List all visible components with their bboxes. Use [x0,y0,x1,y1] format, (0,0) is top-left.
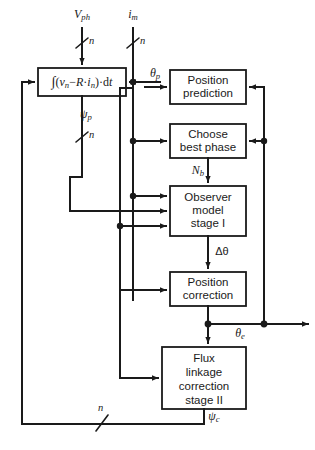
signal-label-delta-theta: Δθ [215,245,228,257]
signal-label-thetap: θp [150,66,161,81]
bus-label-psip: n [89,129,94,140]
nb-signal-group: Nb [191,158,208,182]
observer-model-label-line3: stage I [191,217,226,229]
input-im-group: n im [127,7,160,300]
position-correction-label-line2: correction [183,289,234,301]
block-position-prediction: Position prediction [170,70,246,104]
observer-model-label-line1: Observer [184,191,231,203]
signal-label-thetae: θe [235,326,245,341]
integrator-formula: ∫(vn−R·in)·dt [51,74,113,90]
psi-p-path-group: n ψp [70,96,166,211]
observer-block-diagram: n Vph n im ∫(vn−R·in)·dt [0,0,315,450]
bus-label-psic: n [98,402,103,413]
block-choose-best-phase: Choose best phase [130,124,246,158]
bus-label-vph: n [89,35,94,46]
block-position-correction: Position correction [170,272,246,306]
block-diagram-canvas: n Vph n im ∫(vn−R·in)·dt [0,0,315,450]
bus-label-im: n [140,35,145,46]
observer-model-label-line2: model [192,204,223,216]
theta-e-output-group: θe [205,306,308,343]
choose-best-phase-label-line1: Choose [188,128,228,140]
block-integrator: ∫(vn−R·in)·dt [38,68,126,96]
junction-dot-thetap-observer [117,223,123,229]
signal-label-im: im [128,7,138,22]
right-feedback-bus-group [250,87,267,324]
flux-linkage-label-line3: correction [179,380,230,392]
position-prediction-label-line1: Position [188,74,229,86]
choose-best-phase-label-line2: best phase [180,141,236,153]
signal-label-psic: ψc [208,409,219,424]
position-correction-label-line1: Position [188,276,229,288]
input-vph-group: n Vph [74,7,94,64]
signal-label-nb: Nb [191,163,205,178]
junction-dot-im-choose [130,138,136,144]
block-flux-linkage-correction: Flux linkage correction stage II [120,290,246,409]
signal-label-psip: ψp [80,107,92,122]
flux-linkage-label-line4: stage II [185,394,223,406]
flux-linkage-label-line1: Flux [193,352,215,364]
junction-dot-thetae-left [205,321,212,328]
signal-label-vph: Vph [74,7,90,22]
junction-dot-thetae-choose [261,138,267,144]
theta-p-main-group: θp [133,66,166,87]
flux-linkage-label-line2: linkage [186,366,222,378]
junction-dot-im-observer [130,193,136,199]
delta-theta-group: Δθ [208,236,229,268]
position-prediction-label-line2: prediction [183,87,233,99]
theta-p-branch-group [120,88,166,290]
